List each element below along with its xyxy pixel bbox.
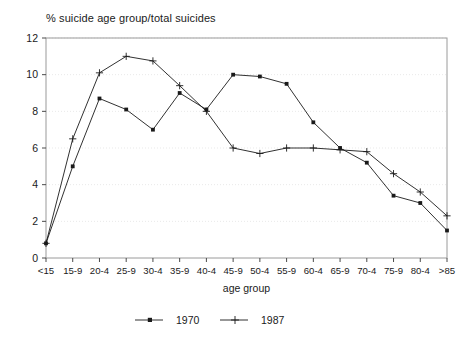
x-axis-label-group: age group bbox=[223, 282, 270, 294]
data-point-1970-70-4 bbox=[365, 161, 369, 165]
data-point-1970-75-9 bbox=[392, 194, 396, 198]
x-tick-label: 40-4 bbox=[197, 265, 217, 276]
data-point-1970-50-4 bbox=[258, 75, 262, 79]
x-tick-label: 60-4 bbox=[304, 265, 324, 276]
data-point-1970-45-9 bbox=[231, 73, 235, 77]
data-point-1970-25-9 bbox=[124, 108, 128, 112]
data-point-1970->85 bbox=[445, 229, 449, 233]
chart-legend: 19701987 bbox=[135, 314, 285, 326]
data-point-1970-30-4 bbox=[151, 128, 155, 132]
series-line-1970 bbox=[46, 75, 447, 244]
x-tick-label: >85 bbox=[439, 265, 455, 276]
x-tick-label: 45-9 bbox=[224, 265, 243, 276]
legend-label-1987: 1987 bbox=[261, 314, 285, 326]
gridlines-group bbox=[46, 38, 447, 221]
data-point-1970-15-9 bbox=[71, 164, 75, 168]
y-tick-label: 10 bbox=[26, 68, 38, 80]
y-tick-label: 12 bbox=[26, 32, 38, 44]
x-tick-label: 70-4 bbox=[357, 265, 377, 276]
data-point-1970-80-4 bbox=[418, 201, 422, 205]
y-axis-ticks: 024681012 bbox=[26, 32, 46, 264]
x-axis-label: age group bbox=[223, 282, 270, 294]
chart-plot-svg: 024681012 <1515-920-425-930-435-940-445-… bbox=[0, 0, 475, 351]
series-line-1987 bbox=[46, 56, 447, 243]
x-axis-ticks: <1515-920-425-930-435-940-445-950-455-96… bbox=[38, 258, 455, 276]
x-tick-label: 30-4 bbox=[143, 265, 163, 276]
data-point-1970-35-9 bbox=[178, 91, 182, 95]
x-tick-label: 50-4 bbox=[250, 265, 270, 276]
y-tick-label: 6 bbox=[32, 142, 38, 154]
legend-label-1970: 1970 bbox=[176, 314, 200, 326]
x-tick-label: 55-9 bbox=[277, 265, 296, 276]
x-tick-label: 25-9 bbox=[117, 265, 136, 276]
data-series-layer bbox=[42, 53, 450, 247]
data-point-1970-55-9 bbox=[285, 82, 289, 86]
y-tick-label: 0 bbox=[32, 252, 38, 264]
chart-container: % suicide age group/total suicides 02468… bbox=[0, 0, 475, 351]
data-point-1970-20-4 bbox=[98, 97, 102, 101]
y-tick-label: 4 bbox=[32, 178, 38, 190]
x-tick-label: 75-9 bbox=[384, 265, 403, 276]
legend-marker-1970 bbox=[148, 318, 152, 322]
x-tick-label: 20-4 bbox=[90, 265, 110, 276]
x-tick-label: 65-9 bbox=[330, 265, 349, 276]
x-tick-label: <15 bbox=[38, 265, 54, 276]
x-tick-label: 80-4 bbox=[411, 265, 431, 276]
x-tick-label: 15-9 bbox=[63, 265, 82, 276]
data-point-1970-60-4 bbox=[311, 120, 315, 124]
y-tick-label: 2 bbox=[32, 215, 38, 227]
y-tick-label: 8 bbox=[32, 105, 38, 117]
x-tick-label: 35-9 bbox=[170, 265, 189, 276]
